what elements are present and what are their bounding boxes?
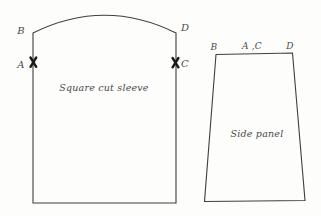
sleeve-notch-label-a: A (17, 60, 24, 70)
side-panel-outline (205, 53, 306, 202)
pattern-diagram: B D A C Square cut sleeve B A ,C D Side … (0, 0, 321, 216)
sleeve-outline (33, 15, 176, 203)
side-panel-label-d: D (286, 42, 293, 51)
side-panel-label-ac: A ,C (242, 42, 262, 51)
sleeve-piece-name: Square cut sleeve (59, 83, 148, 93)
pattern-outlines (0, 0, 321, 216)
sleeve-corner-label-b: B (17, 26, 25, 36)
side-panel-piece-name: Side panel (231, 129, 284, 139)
sleeve-notch-label-c: C (181, 59, 189, 69)
sleeve-corner-label-d: D (181, 23, 189, 33)
side-panel-label-b: B (211, 43, 218, 52)
